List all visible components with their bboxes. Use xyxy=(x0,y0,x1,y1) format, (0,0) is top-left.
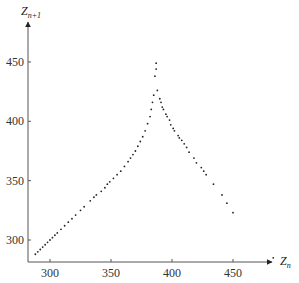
data-point xyxy=(80,209,82,211)
data-point xyxy=(221,194,223,196)
data-point xyxy=(116,174,118,176)
data-point xyxy=(177,135,179,137)
data-point xyxy=(160,101,162,103)
data-point xyxy=(56,232,58,234)
data-point xyxy=(89,200,91,202)
y-ticks: 300350400450 xyxy=(6,55,31,247)
data-point xyxy=(113,177,115,179)
data-point xyxy=(104,187,106,189)
data-point xyxy=(106,183,108,185)
data-point xyxy=(232,212,234,214)
data-point xyxy=(124,166,126,168)
data-point xyxy=(161,106,163,108)
data-point xyxy=(49,239,51,241)
data-point xyxy=(183,143,185,145)
data-point xyxy=(75,214,77,216)
data-point xyxy=(44,244,46,246)
data-point xyxy=(196,162,198,164)
x-tick-label: 450 xyxy=(224,266,242,280)
data-point xyxy=(203,170,205,172)
y-axis-label: Zn+1 xyxy=(21,4,41,20)
data-point xyxy=(37,251,39,253)
data-point xyxy=(154,75,156,77)
data-point xyxy=(155,68,157,70)
data-point xyxy=(34,253,36,255)
data-point xyxy=(127,161,129,163)
data-point xyxy=(60,228,62,230)
y-tick-label: 400 xyxy=(6,114,24,128)
data-point xyxy=(178,137,180,139)
data-point xyxy=(67,221,69,223)
data-point xyxy=(64,225,66,227)
data-point xyxy=(142,136,144,138)
y-tick-label: 300 xyxy=(6,233,24,247)
data-point xyxy=(95,194,97,196)
data-point xyxy=(165,113,167,115)
data-point xyxy=(139,141,141,143)
y-tick-label: 350 xyxy=(6,174,24,188)
data-point xyxy=(47,241,49,243)
chart: 300350400450 300350400450 Zn+1 Zn xyxy=(0,0,299,283)
data-point xyxy=(135,150,137,152)
data-point xyxy=(156,90,158,92)
data-point xyxy=(163,109,165,111)
data-point xyxy=(93,196,95,198)
data-point xyxy=(152,101,154,103)
data-point xyxy=(188,151,190,153)
data-point xyxy=(147,123,149,125)
data-point xyxy=(186,147,188,149)
data-point xyxy=(83,206,85,208)
data-point xyxy=(213,183,215,185)
data-point xyxy=(166,116,168,118)
data-point xyxy=(193,157,195,159)
data-point xyxy=(200,167,202,169)
data-point xyxy=(52,237,54,239)
data-point xyxy=(172,128,174,130)
data-point xyxy=(155,62,157,64)
x-tick-label: 350 xyxy=(102,266,120,280)
data-point xyxy=(149,116,151,118)
data-point xyxy=(132,154,134,156)
data-point xyxy=(137,145,139,147)
data-point xyxy=(181,139,183,141)
y-tick-label: 450 xyxy=(6,55,24,69)
data-point xyxy=(42,246,44,248)
data-point xyxy=(174,130,176,132)
data-point xyxy=(169,119,171,121)
data-point xyxy=(71,218,73,220)
data-point xyxy=(272,257,274,259)
data-point xyxy=(159,98,161,100)
x-axis-label: Zn xyxy=(280,254,291,270)
data-point xyxy=(54,234,56,236)
data-point xyxy=(100,190,102,192)
data-point xyxy=(109,181,111,183)
data-point xyxy=(205,174,207,176)
data-point xyxy=(153,94,155,96)
data-points xyxy=(34,62,274,258)
data-point xyxy=(120,170,122,172)
x-tick-label: 400 xyxy=(163,266,181,280)
x-tick-label: 300 xyxy=(41,266,59,280)
data-point xyxy=(150,109,152,111)
data-point xyxy=(130,157,132,159)
data-point xyxy=(170,124,172,126)
data-point xyxy=(226,202,228,204)
data-point xyxy=(144,130,146,132)
data-point xyxy=(39,249,41,251)
